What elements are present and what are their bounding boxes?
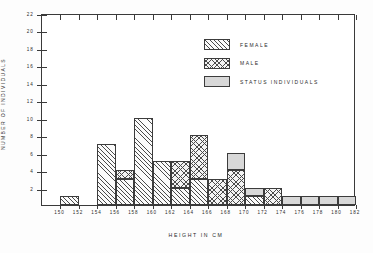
x-tick-label: 182 bbox=[350, 210, 360, 215]
bar-segment bbox=[190, 135, 208, 179]
x-tick bbox=[245, 205, 246, 209]
x-tick-label: 176 bbox=[294, 210, 304, 215]
x-tick bbox=[338, 205, 339, 209]
y-tick-label: 12 bbox=[12, 99, 34, 104]
legend-swatch bbox=[204, 76, 230, 87]
y-tick-inner bbox=[42, 190, 47, 191]
y-tick-inner bbox=[42, 32, 47, 33]
bar-segment bbox=[171, 161, 189, 187]
x-tick-label: 168 bbox=[221, 210, 231, 215]
bar-segment bbox=[319, 196, 337, 205]
x-tick-label: 162 bbox=[165, 210, 175, 215]
x-tick-label: 160 bbox=[147, 210, 157, 215]
bar-stack bbox=[171, 161, 189, 205]
bar-stack bbox=[97, 144, 115, 205]
x-tick-label: 178 bbox=[313, 210, 323, 215]
y-tick-inner bbox=[42, 102, 47, 103]
legend-label: STATUS INDIVIDUALS bbox=[240, 79, 319, 85]
bar-segment bbox=[245, 188, 263, 197]
bar-segment bbox=[171, 188, 189, 205]
y-tick-inner bbox=[42, 15, 47, 16]
bar-segment bbox=[227, 153, 245, 170]
x-tick-top bbox=[264, 15, 265, 20]
bar-stack bbox=[190, 135, 208, 205]
bar-stack bbox=[134, 118, 152, 205]
legend-item: MALE bbox=[204, 58, 319, 69]
chart-legend: FEMALEMALESTATUS INDIVIDUALS bbox=[204, 39, 319, 95]
x-tick-top bbox=[60, 15, 61, 20]
bar-stack bbox=[301, 196, 319, 205]
x-tick-label: 154 bbox=[91, 210, 101, 215]
x-tick-top bbox=[227, 15, 228, 20]
x-tick-label: 166 bbox=[202, 210, 212, 215]
x-tick-top bbox=[190, 15, 191, 20]
x-axis-title: HEIGHT IN CM bbox=[169, 232, 224, 238]
x-tick bbox=[301, 205, 302, 209]
bar-segment bbox=[338, 196, 356, 205]
x-tick-top bbox=[134, 15, 135, 20]
chart-root: NUMBER OF INDIVIDUALS HEIGHT IN CM 15015… bbox=[0, 0, 373, 253]
x-tick bbox=[208, 205, 209, 209]
y-tick-label: 14 bbox=[12, 81, 34, 86]
legend-item: FEMALE bbox=[204, 39, 319, 50]
x-tick-top bbox=[338, 15, 339, 20]
x-tick-top bbox=[97, 15, 98, 20]
x-tick-label: 164 bbox=[184, 210, 194, 215]
legend-label: MALE bbox=[240, 60, 260, 66]
bar-segment bbox=[264, 188, 282, 205]
y-tick-inner bbox=[42, 120, 47, 121]
bar-segment bbox=[153, 161, 171, 205]
legend-swatch bbox=[204, 58, 230, 69]
bar-stack bbox=[264, 188, 282, 205]
x-tick-label: 150 bbox=[54, 210, 64, 215]
bar-segment bbox=[227, 170, 245, 205]
bar-stack bbox=[282, 196, 300, 205]
bar-segment bbox=[301, 196, 319, 205]
x-tick-top bbox=[116, 15, 117, 20]
bar-segment bbox=[245, 196, 263, 205]
bar-segment bbox=[134, 118, 152, 205]
y-tick-label: 8 bbox=[12, 134, 34, 139]
x-tick bbox=[319, 205, 320, 209]
y-tick-label: 10 bbox=[12, 116, 34, 121]
x-tick-top bbox=[171, 15, 172, 20]
x-tick-label: 152 bbox=[73, 210, 83, 215]
bar-stack bbox=[338, 196, 356, 205]
x-tick-label: 170 bbox=[239, 210, 249, 215]
x-tick-label: 172 bbox=[257, 210, 267, 215]
x-tick-top bbox=[356, 15, 357, 20]
x-tick bbox=[60, 205, 61, 209]
x-tick-label: 180 bbox=[331, 210, 341, 215]
bar-stack bbox=[153, 161, 171, 205]
x-tick bbox=[190, 205, 191, 209]
bar-stack bbox=[245, 188, 263, 205]
y-tick-label: 16 bbox=[12, 64, 34, 69]
x-tick-top bbox=[245, 15, 246, 20]
bar-stack bbox=[60, 196, 78, 205]
y-tick-label: 20 bbox=[12, 29, 34, 34]
y-tick-inner bbox=[42, 85, 47, 86]
x-tick-label: 156 bbox=[110, 210, 120, 215]
x-tick-label: 158 bbox=[128, 210, 138, 215]
bar-segment bbox=[208, 179, 226, 205]
x-tick bbox=[171, 205, 172, 209]
y-tick-label: 6 bbox=[12, 151, 34, 156]
y-tick-inner bbox=[42, 50, 47, 51]
x-tick-top bbox=[153, 15, 154, 20]
x-tick-top bbox=[282, 15, 283, 20]
x-tick bbox=[356, 205, 357, 209]
bar-segment bbox=[116, 170, 134, 179]
x-tick bbox=[282, 205, 283, 209]
y-axis-title: NUMBER OF INDIVIDUALS bbox=[0, 58, 6, 150]
y-tick-inner bbox=[42, 155, 47, 156]
bar-segment bbox=[116, 179, 134, 205]
x-tick bbox=[116, 205, 117, 209]
y-tick-label: 2 bbox=[12, 186, 34, 191]
legend-item: STATUS INDIVIDUALS bbox=[204, 76, 319, 87]
x-tick-label: 174 bbox=[276, 210, 286, 215]
legend-swatch bbox=[204, 39, 230, 50]
x-tick-top bbox=[319, 15, 320, 20]
x-tick bbox=[134, 205, 135, 209]
legend-label: FEMALE bbox=[240, 42, 269, 48]
y-tick-label: 18 bbox=[12, 46, 34, 51]
